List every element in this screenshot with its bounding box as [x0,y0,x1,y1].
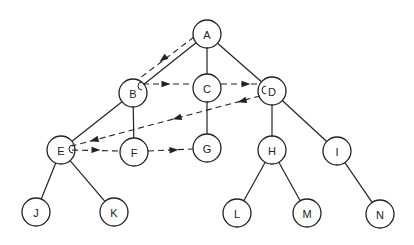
edge-e-k [70,161,105,202]
node-label: A [203,29,211,41]
arrow-icon [242,81,251,87]
node-m: M [293,199,321,227]
traversal-a-to-b [140,37,194,78]
node-label: E [57,145,64,157]
node-h: H [258,136,286,164]
turn-mark-b [138,82,142,90]
edge-h-m [279,162,300,201]
node-label: N [376,209,384,221]
tree-traversal-diagram: ABCDEFGHIJKLMN [0,0,414,245]
edge-e-j [41,163,56,199]
edge-h-l [244,162,265,201]
node-label: B [129,88,136,100]
node-a: A [193,20,221,48]
node-label: D [268,86,276,98]
node-j: J [22,198,50,226]
turn-marks [69,82,266,153]
node-i: I [323,137,351,165]
edge-a-b [144,43,196,85]
arrow-icon [169,147,178,153]
node-label: I [335,146,338,158]
edge-b-e [72,102,122,142]
traversal-b-to-c [143,81,193,87]
node-label: C [203,83,211,95]
node-label: J [33,207,39,219]
edge-a-d [218,43,262,82]
arrow-icon [159,54,168,62]
node-l: L [223,199,251,227]
traversal-d-to-e [72,96,260,146]
node-b: B [119,79,147,107]
node-g: G [193,134,221,162]
tree-edges [41,43,372,203]
traversal-path [72,37,260,153]
arrow-icon [238,97,248,103]
edge-b-f [133,107,134,138]
arrow-icon [91,147,100,153]
node-label: F [131,147,138,159]
node-label: K [110,207,118,219]
traversal-f-to-g [148,147,193,153]
node-f: F [120,138,148,166]
tree-nodes: ABCDEFGHIJKLMN [22,20,394,228]
node-label: L [234,208,240,220]
node-label: H [268,145,276,157]
node-e: E [47,136,75,164]
turn-mark-d [262,86,266,94]
traversal-e-to-f [72,147,120,153]
node-label: M [302,208,311,220]
edge-d-i [282,100,326,141]
edge-i-n [345,163,372,203]
node-label: G [203,143,212,155]
node-n: N [366,200,394,228]
node-c: C [193,74,221,102]
arrow-icon [173,114,183,120]
traversal-c-to-d [221,81,259,87]
arrow-icon [90,136,100,142]
node-k: K [100,198,128,226]
arrow-icon [162,81,171,87]
